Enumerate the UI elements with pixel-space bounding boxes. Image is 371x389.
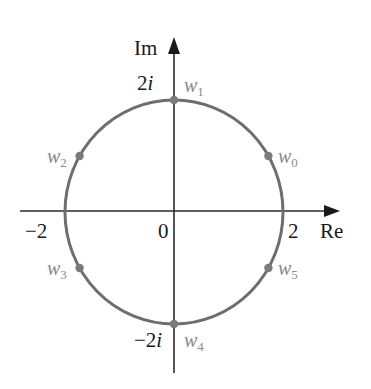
point-w1 bbox=[170, 96, 178, 104]
tick-label-x-neg2: −2 bbox=[25, 221, 47, 242]
tick-label-y-neg2i: −2i bbox=[134, 330, 162, 351]
point-label-w4-index: 4 bbox=[197, 339, 204, 354]
point-label-w3-name: w bbox=[47, 257, 60, 279]
point-label-w3: w3 bbox=[47, 258, 67, 281]
point-label-w5-index: 5 bbox=[291, 267, 298, 282]
point-label-w4: w4 bbox=[184, 330, 204, 353]
point-label-w1-name: w bbox=[184, 74, 197, 96]
real-axis-arrow-icon bbox=[324, 205, 340, 217]
point-label-w1-index: 1 bbox=[197, 84, 204, 99]
complex-plane-diagram: Im Re 0 2 −2 2i −2i w0 w1 w2 w3 w4 w5 bbox=[0, 0, 371, 389]
point-label-w2-index: 2 bbox=[60, 155, 67, 170]
point-w0 bbox=[264, 152, 272, 160]
point-label-w0: w0 bbox=[278, 146, 298, 169]
point-label-w2-name: w bbox=[47, 145, 60, 167]
point-label-w2: w2 bbox=[47, 146, 67, 169]
tick-label-y-2i-number: 2 bbox=[137, 71, 148, 95]
tick-label-y-2i: 2i bbox=[137, 73, 153, 94]
point-label-w5: w5 bbox=[278, 258, 298, 281]
tick-label-y-2i-unit: i bbox=[148, 71, 154, 95]
point-label-w1: w1 bbox=[184, 75, 204, 98]
point-label-w0-name: w bbox=[278, 145, 291, 167]
tick-label-y-neg2i-number: −2 bbox=[134, 328, 156, 352]
tick-label-y-neg2i-unit: i bbox=[156, 328, 162, 352]
point-w4 bbox=[170, 320, 178, 328]
point-label-w4-name: w bbox=[184, 329, 197, 351]
origin-label: 0 bbox=[158, 221, 169, 242]
point-w3 bbox=[75, 264, 83, 272]
point-label-w0-index: 0 bbox=[291, 155, 298, 170]
real-axis-label: Re bbox=[320, 221, 343, 242]
tick-label-x-2: 2 bbox=[288, 221, 299, 242]
point-label-w5-name: w bbox=[278, 257, 291, 279]
imaginary-axis-label: Im bbox=[134, 38, 157, 59]
imaginary-axis-arrow-icon bbox=[168, 37, 180, 54]
point-w2 bbox=[75, 152, 83, 160]
point-w5 bbox=[264, 264, 272, 272]
point-label-w3-index: 3 bbox=[60, 267, 67, 282]
